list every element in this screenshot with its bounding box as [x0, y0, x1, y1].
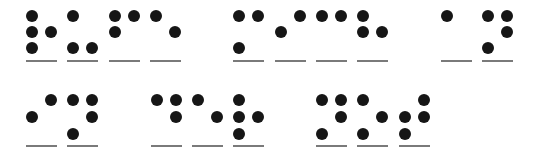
braille-dot-1 — [441, 10, 453, 22]
braille-dot-2 — [26, 111, 38, 123]
cell-underline — [482, 60, 513, 62]
braille-dot-1 — [357, 10, 369, 22]
braille-dot-4 — [418, 94, 430, 106]
cell-underline — [67, 145, 98, 147]
cell-underline — [150, 60, 181, 62]
braille-dot-5 — [45, 26, 57, 38]
cell-underline — [151, 145, 182, 147]
cell-underline — [26, 60, 57, 62]
braille-dot-1 — [482, 10, 494, 22]
braille-dot-2 — [399, 111, 411, 123]
cell-underline — [316, 60, 347, 62]
braille-dot-3 — [233, 128, 245, 140]
braille-dot-2 — [357, 26, 369, 38]
braille-dot-4 — [86, 94, 98, 106]
braille-dot-4 — [45, 94, 57, 106]
braille-dot-4 — [170, 94, 182, 106]
braille-dot-1 — [151, 94, 163, 106]
braille-dot-2 — [26, 26, 38, 38]
braille-dot-2 — [233, 111, 245, 123]
braille-dot-1 — [67, 94, 79, 106]
braille-dot-1 — [357, 94, 369, 106]
braille-dot-1 — [150, 10, 162, 22]
braille-dot-4 — [335, 94, 347, 106]
braille-dot-3 — [233, 42, 245, 54]
braille-dot-2 — [109, 26, 121, 38]
braille-dot-6 — [86, 42, 98, 54]
braille-dot-3 — [399, 128, 411, 140]
braille-dot-3 — [316, 128, 328, 140]
braille-dot-3 — [482, 42, 494, 54]
cell-underline — [109, 60, 140, 62]
braille-dot-1 — [67, 10, 79, 22]
braille-dot-3 — [67, 42, 79, 54]
braille-dot-1 — [109, 10, 121, 22]
braille-dot-5 — [169, 26, 181, 38]
braille-dot-4 — [128, 10, 140, 22]
braille-dot-3 — [357, 128, 369, 140]
cell-underline — [316, 145, 347, 147]
cell-underline — [357, 145, 388, 147]
braille-dot-4 — [252, 10, 264, 22]
cell-underline — [233, 60, 264, 62]
braille-dot-5 — [86, 111, 98, 123]
braille-dot-3 — [67, 128, 79, 140]
braille-dot-1 — [192, 94, 204, 106]
cell-underline — [275, 60, 306, 62]
braille-dot-5 — [418, 111, 430, 123]
braille-dot-1 — [233, 94, 245, 106]
cell-underline — [233, 145, 264, 147]
cell-underline — [399, 145, 430, 147]
braille-dot-2 — [275, 26, 287, 38]
cell-underline — [192, 145, 223, 147]
cell-underline — [357, 60, 388, 62]
braille-dot-5 — [211, 111, 223, 123]
braille-dot-1 — [233, 10, 245, 22]
braille-dot-1 — [316, 94, 328, 106]
braille-dot-4 — [335, 10, 347, 22]
cell-underline — [26, 145, 57, 147]
braille-dot-5 — [376, 111, 388, 123]
braille-dot-4 — [294, 10, 306, 22]
braille-dot-3 — [26, 42, 38, 54]
cell-underline — [67, 60, 98, 62]
braille-dot-1 — [316, 10, 328, 22]
braille-dot-5 — [252, 111, 264, 123]
braille-dot-5 — [501, 26, 513, 38]
braille-dot-5 — [170, 111, 182, 123]
braille-dot-4 — [501, 10, 513, 22]
braille-dot-5 — [376, 26, 388, 38]
cell-underline — [441, 60, 472, 62]
braille-dot-1 — [26, 10, 38, 22]
braille-dot-5 — [335, 111, 347, 123]
